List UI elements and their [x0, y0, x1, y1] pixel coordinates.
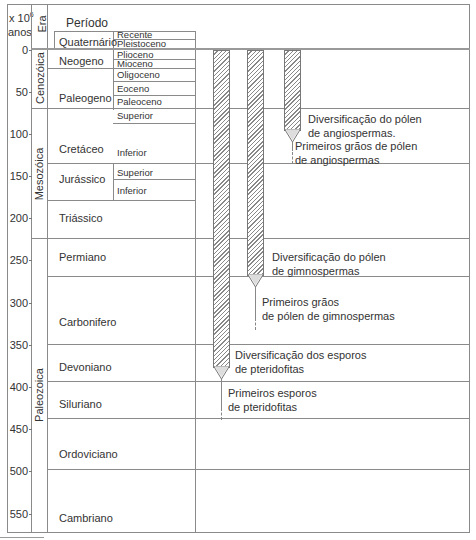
epoch-column-left-line-2 — [113, 163, 114, 200]
era-column-left-line — [31, 4, 32, 533]
oligoceno-bottom — [113, 81, 195, 82]
tick-250: 250 — [0, 254, 28, 266]
range-dashed-gimnospermas — [255, 318, 256, 330]
range-line-gimnospermas — [255, 286, 256, 318]
period-ordoviciano: Ordoviciano — [59, 448, 118, 460]
range-bar-angiospermas — [284, 50, 301, 131]
period-permiano: Permiano — [59, 251, 106, 263]
note-angio-first: Primeiros grãos de pólen de angiospermas — [295, 139, 417, 167]
era-paleozoica: Paleozoica — [33, 363, 45, 427]
period-neogeno: Neogeno — [59, 55, 104, 67]
era-cenozoica: Cenozóica — [34, 51, 46, 106]
period-paleogeno: Paleogeno — [59, 92, 112, 104]
tick-350: 350 — [0, 339, 28, 351]
era-header: Era — [36, 15, 48, 32]
note-gimno-diversification: Diversificação do pólen de gimnospermas — [272, 250, 386, 278]
period-cambriano: Cambriano — [59, 512, 113, 524]
chart-area-left-line — [195, 31, 196, 533]
quaternary-left-line — [54, 31, 55, 48]
period-devoniano: Devoniano — [59, 361, 112, 373]
range-line-pteridofitas — [221, 378, 222, 408]
age-axis-label: x 106 — [9, 9, 34, 24]
epoch-jurassico-superior: Superior — [117, 168, 153, 178]
range-bar-pteridofitas — [213, 50, 230, 368]
tick-300: 300 — [0, 297, 28, 309]
epoch-paleoceno: Paleoceno — [117, 97, 162, 107]
period-header: Período — [66, 17, 108, 29]
epoch-eoceno: Eoceno — [117, 84, 149, 94]
epoch-jurassico-inferior: Inferior — [117, 186, 147, 196]
era-mesozoica: Mesozóica — [33, 144, 45, 204]
period-triassico: Triássico — [59, 212, 103, 224]
range-dashed-pteridofitas — [221, 408, 222, 420]
period-siluriano: Siluriano — [59, 398, 102, 410]
period-column-left-line — [47, 4, 48, 533]
period-cretaceo: Cretáceo — [59, 143, 104, 155]
range-line-angiospermas — [292, 141, 293, 151]
epoch-oligoceno: Oligoceno — [117, 70, 160, 80]
period-carbonifero: Carbonifero — [59, 316, 116, 328]
jurassico-bottom — [47, 200, 195, 201]
tick-200: 200 — [0, 212, 28, 224]
range-dashed-angiospermas — [292, 152, 293, 164]
epoch-cretaceo-inferior: Inferior — [117, 148, 147, 158]
period-jurassico: Jurássico — [59, 173, 105, 185]
tick-100: 100 — [0, 128, 28, 140]
age-axis-unit: anos — [8, 26, 32, 38]
cret-sup-bottom — [113, 123, 195, 124]
tick-50: 50 — [0, 86, 28, 98]
note-angio-diversification: Diversificação do pólen de angiospermas. — [308, 112, 422, 140]
tick-0: 0 — [0, 44, 28, 56]
carbonifero-bottom — [47, 344, 470, 345]
footer-mark — [0, 537, 44, 538]
tick-400: 400 — [0, 381, 28, 393]
jur-sup-bottom — [113, 179, 195, 180]
note-pter-first: Primeiros esporos de pteridofitas — [228, 386, 317, 414]
siluriano-bottom — [47, 418, 470, 419]
epoch-cretaceo-superior: Superior — [117, 111, 153, 121]
epoch-mioceno: Mioceno — [117, 59, 153, 69]
tick-500: 500 — [0, 465, 28, 477]
tick-550: 550 — [0, 508, 28, 520]
epoch-pleistoceno: Pleistoceno — [117, 39, 166, 49]
tick-450: 450 — [0, 423, 28, 435]
tick-150: 150 — [0, 170, 28, 182]
note-pter-diversification: Diversificação dos esporos de pteridofit… — [235, 348, 366, 376]
range-bar-gimnospermas — [247, 50, 264, 276]
note-gimno-first: Primeiros grãos de pólen de gimnospermas — [262, 295, 395, 323]
period-quaternario: Quaternário — [59, 36, 117, 48]
devoniano-bottom — [47, 381, 470, 382]
ordoviciano-bottom — [47, 469, 470, 470]
